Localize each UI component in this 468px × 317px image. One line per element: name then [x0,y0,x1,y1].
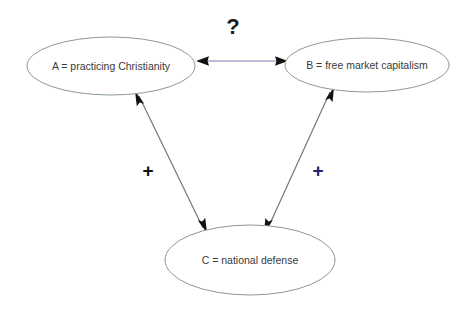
node-a-label: A = practicing Christianity [52,60,171,72]
edge-a-b-label-question: ? [226,14,239,39]
node-b-label: B = free market capitalism [306,59,428,71]
edge-a-b-arrowhead-left [196,56,209,66]
node-c[interactable]: C = national defense [165,225,335,295]
edge-b-c-label-plus: + [312,160,323,181]
edge-a-c-label-plus: + [142,160,153,181]
node-b[interactable]: B = free market capitalism [285,38,449,92]
diagram-canvas: ? + + A = practicing Christianity [0,0,468,317]
edge-a-c: + [135,91,207,233]
diagram-svg: ? + + A = practicing Christianity [0,0,468,317]
node-c-label: C = national defense [202,254,299,266]
edge-a-b: ? [196,14,288,66]
edge-b-c: + [264,87,334,233]
node-a[interactable]: A = practicing Christianity [27,37,195,95]
